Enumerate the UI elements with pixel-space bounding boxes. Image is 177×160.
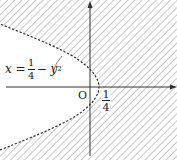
intercept-denominator: 4 — [103, 102, 110, 113]
equation-exponent: 2 — [57, 66, 61, 73]
equation-fraction: 1 4 — [28, 58, 35, 81]
equation-lhs: x = — [5, 63, 26, 75]
x-intercept-label: 1 4 — [101, 89, 111, 113]
curve-equation-label: x = 1 4 − y 2 — [5, 56, 62, 82]
fraction-denominator: 4 — [28, 71, 34, 81]
equation-rhs: − y — [37, 63, 58, 75]
fraction-numerator: 1 — [28, 58, 34, 68]
intercept-numerator: 1 — [103, 89, 110, 100]
origin-label: O — [78, 90, 87, 101]
